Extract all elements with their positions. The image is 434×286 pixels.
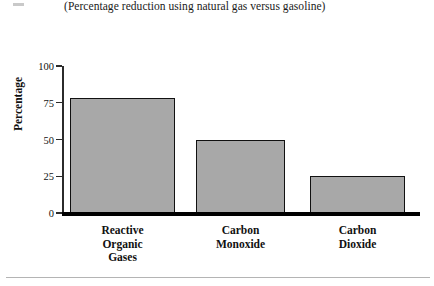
y-axis-tick-label: 25: [14, 171, 54, 182]
x-axis-baseline: [62, 212, 420, 216]
bar: [70, 98, 175, 213]
footer-divider: [6, 277, 430, 278]
bars-layer: [62, 66, 420, 213]
y-axis-tick-label: 50: [14, 134, 54, 145]
category-label-line: Dioxide: [288, 238, 428, 252]
chart-figure: (Percentage reduction using natural gas …: [0, 0, 434, 286]
category-label-line: Carbon: [288, 224, 428, 238]
y-axis-title: Percentage: [12, 77, 24, 131]
category-label-line: Gases: [53, 251, 193, 265]
bar: [196, 140, 285, 214]
x-axis-category-labels: ReactiveOrganicGasesCarbonMonoxideCarbon…: [62, 224, 420, 270]
bar: [310, 176, 405, 213]
y-axis-tick-label: 0: [14, 208, 54, 219]
y-axis-tick-label: 100: [14, 61, 54, 72]
category-label: CarbonDioxide: [288, 224, 428, 251]
chart-subtitle: (Percentage reduction using natural gas …: [64, 0, 325, 12]
